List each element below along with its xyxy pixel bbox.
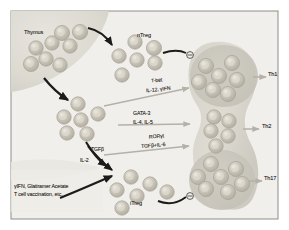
cell — [60, 126, 74, 140]
label-therapy-line1: γIFN, Glatiramer Acetate — [14, 184, 68, 190]
figure-panel: Thymus nTreg iTreg Th1 Th2 Th17 T-bet IL… — [0, 0, 289, 230]
cell — [57, 110, 71, 124]
cell — [148, 56, 162, 70]
cell — [213, 169, 228, 184]
label-tgfb: TGFβ — [91, 147, 104, 153]
cell — [234, 176, 249, 191]
cell — [204, 124, 218, 138]
cell — [124, 170, 138, 184]
cell — [205, 82, 220, 97]
label-il2: IL-2 — [80, 158, 89, 164]
cell — [198, 181, 213, 196]
cell — [54, 25, 69, 40]
cell — [39, 52, 53, 66]
cell — [80, 127, 94, 141]
label-thymus: Thymus — [24, 29, 43, 35]
pathway-arrow-th2 — [118, 124, 190, 125]
cell — [220, 86, 235, 101]
cell — [221, 129, 235, 143]
cell — [72, 24, 87, 39]
label-therapy-line2: T cell vaccination, etc. — [14, 192, 63, 198]
label-gata3-cytokines: IL-4, IL-5 — [133, 120, 153, 126]
label-itreg: iTreg — [130, 200, 142, 206]
cell — [115, 68, 129, 82]
cell — [53, 58, 67, 72]
cell — [29, 41, 43, 55]
cell — [222, 114, 236, 128]
label-ntreg: nTreg — [137, 32, 151, 38]
cell — [198, 58, 213, 73]
cell — [211, 68, 226, 83]
cell — [115, 201, 129, 215]
cell — [207, 110, 221, 124]
cell — [220, 184, 235, 199]
cell — [63, 39, 77, 53]
cell — [112, 49, 126, 63]
cell — [74, 113, 88, 127]
inhibition-marker-th17 — [187, 193, 194, 200]
inhibition-marker-th1 — [187, 52, 194, 59]
label-th17: Th17 — [264, 175, 276, 181]
cell — [146, 40, 161, 55]
cell — [191, 74, 206, 89]
cell — [203, 156, 218, 171]
cell — [143, 177, 157, 191]
cell — [160, 185, 174, 199]
label-th1: Th1 — [268, 71, 277, 77]
cell — [209, 139, 223, 153]
cell — [224, 55, 239, 70]
label-gata3: GATA-3 — [133, 111, 150, 117]
label-th2: Th2 — [262, 123, 271, 129]
cell — [91, 107, 105, 121]
cell — [110, 183, 124, 197]
cell — [229, 72, 244, 87]
label-tbet: T-bet — [151, 77, 163, 84]
cell — [23, 56, 38, 71]
cell — [71, 97, 85, 111]
cell — [228, 161, 243, 176]
cell — [130, 53, 144, 67]
